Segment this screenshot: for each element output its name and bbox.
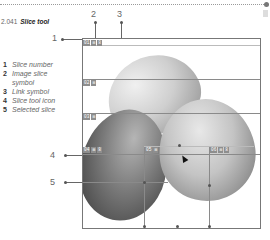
slice-line [83,79,260,80]
slice-handle[interactable] [178,144,181,147]
slice-handle[interactable] [208,225,211,228]
slice-handle[interactable] [143,181,146,184]
slice-line [83,154,260,155]
legend-item: 1Slice number [3,60,62,69]
slice-badge-03[interactable]: 03 ⊠ [83,114,96,120]
slice-badge-01[interactable]: 01 ⊠ 8 [83,40,102,46]
image-slice-icon: ⊠ [91,40,96,46]
leader-1 [62,39,82,40]
slice-number: 05 [145,147,152,153]
figure-title: 2.041Slice tool [1,18,49,25]
slice-line-selected [83,182,168,183]
leader-3-dot [120,21,123,24]
side-marker [263,10,268,17]
slice-number: 01 [83,40,90,46]
slice-handle[interactable] [208,184,211,187]
slice-line-selected [144,146,145,228]
legend-item: 2Image slice symbol [3,69,62,87]
slice-number: 03 [83,114,90,120]
rule-end-dot [264,2,269,7]
slice-badge-05[interactable]: 05 ⊠ [145,147,158,153]
image-canvas[interactable]: 01 ⊠ 8 02 ⊠ 03 ⊠ 04 ⊠ 8 05 ⊠ 06 ⊠ 8 [82,38,261,229]
callout-2: 2 [91,9,96,19]
image-slice-icon: ⊠ [91,80,96,86]
link-icon: 8 [224,147,229,153]
legend-item: 5Selected slice [3,105,62,114]
image-slice-icon: ⊠ [153,147,158,153]
slice-handle[interactable] [176,225,179,228]
image-slice-icon: ⊠ [91,147,96,153]
legend: 1Slice number 2Image slice symbol 3Link … [3,60,62,114]
slice-number: 06 [210,147,217,153]
slice-number: 02 [83,80,90,86]
figure-number: 2.041 [1,18,17,25]
callout-3: 3 [117,9,122,19]
slice-line [83,45,260,46]
slice-line [209,146,210,228]
legend-item: 3Link symbol [3,87,62,96]
legend-item: 4Slice tool icon [3,96,62,105]
image-slice-icon: ⊠ [91,114,96,120]
leader-2 [95,22,96,38]
slice-badge-04[interactable]: 04 ⊠ 8 [83,147,102,153]
callout-5: 5 [50,177,55,187]
callout-1: 1 [52,33,57,43]
leader-2-dot [94,21,97,24]
link-icon: 8 [97,147,102,153]
slice-line [83,113,260,114]
callout-4: 4 [50,150,55,160]
slice-badge-02[interactable]: 02 ⊠ [83,80,96,86]
dotted-rule [0,4,266,5]
figure-name: Slice tool [20,18,49,25]
link-icon: 8 [97,40,102,46]
leader-4-dot [64,154,67,157]
slice-badge-06[interactable]: 06 ⊠ 8 [210,147,229,153]
leader-3 [121,22,122,38]
slice-number: 04 [83,147,90,153]
image-slice-icon: ⊠ [218,147,223,153]
leader-5-dot [64,181,67,184]
slice-handle[interactable] [143,225,146,228]
slice-line [144,146,254,147]
leader-1-dot [61,38,64,41]
